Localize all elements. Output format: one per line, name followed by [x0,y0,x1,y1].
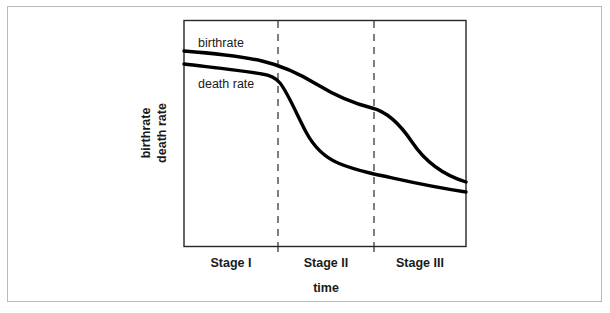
birthrate-label: birthrate [198,36,244,50]
stage-label-2: Stage II [304,256,348,270]
demographic-transition-chart: birthrate death rate birthrate death rat… [0,0,610,313]
x-axis-title: time [313,281,339,295]
y-axis-title-line1: birthrate [139,108,153,159]
stage-label-1: Stage I [211,256,252,270]
y-axis-title-line2: death rate [155,103,169,163]
death-rate-label: death rate [198,77,254,91]
figure-root: birthrate death rate birthrate death rat… [0,0,610,313]
stage-label-3: Stage III [396,256,444,270]
